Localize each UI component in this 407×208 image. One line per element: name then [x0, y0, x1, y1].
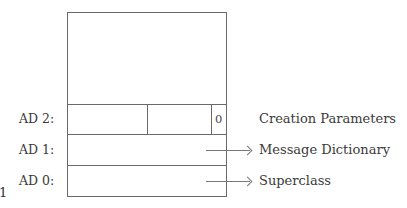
row-label-ad2: AD 2: — [19, 112, 54, 126]
row-separator-ad0-top — [67, 165, 227, 166]
row-label-ad0: AD 0: — [19, 174, 54, 188]
box-bottom-edge — [67, 196, 227, 197]
description-creation-parameters: Creation Parameters — [259, 112, 396, 126]
row-label-ad1: AD 1: — [19, 143, 54, 157]
ad2-field-divider-2 — [211, 104, 212, 135]
box-top-edge — [67, 12, 227, 13]
arrow-superclass — [206, 181, 250, 182]
ad2-field-divider-1 — [147, 104, 148, 135]
description-superclass: Superclass — [259, 174, 331, 188]
arrow-message-dictionary — [206, 150, 250, 151]
description-message-dictionary: Message Dictionary — [259, 143, 390, 157]
cropped-text-fragment: 1 — [0, 185, 7, 200]
ad2-zero-field: 0 — [215, 113, 222, 125]
